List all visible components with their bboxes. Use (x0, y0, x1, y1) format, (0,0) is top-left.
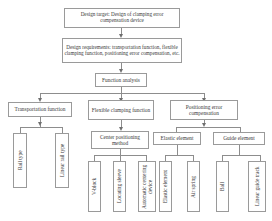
connector-positioning-bus (176, 127, 240, 128)
node-elastic-element-label: Elastic element (159, 135, 194, 141)
node-transportation-function: Transportation function (8, 102, 72, 117)
node-design-requirements: Design requirements: transportation func… (62, 38, 182, 63)
node-v-block-label: V-block (91, 177, 97, 196)
connector-guide-stem (239, 145, 240, 155)
node-positioning-error-compensation-label: Positioning error compensation (171, 104, 237, 116)
node-automatic-centering-device: Automatic centering device (138, 161, 156, 212)
node-function-analysis: Function analysis (95, 73, 147, 87)
node-locating-sleeve-label: Locating sleeve (116, 169, 122, 205)
node-linear-rail-type-label: Linear rail type (59, 143, 65, 178)
node-center-positioning-method-label: Center positioning method (92, 134, 148, 146)
connector-analysis-bus (40, 93, 204, 94)
node-locating-sleeve: Locating sleeve (113, 161, 126, 212)
connector-guide-bus (222, 155, 260, 156)
node-automatic-centering-device-label: Automatic centering device (141, 162, 153, 211)
flowchart-canvas: Design target: Design of clamping error … (0, 0, 272, 221)
node-linear-guide-track-label: Linear guide track (254, 166, 260, 208)
node-design-requirements-label: Design requirements: transportation func… (63, 45, 181, 57)
node-center-positioning-method: Center positioning method (91, 131, 149, 149)
node-v-block: V-block (88, 161, 101, 212)
node-elastic-element-leaf-label: Elastic element (162, 169, 168, 204)
node-rail-type-label: Rail type (17, 150, 23, 172)
node-air-spring: Air spring (187, 161, 200, 212)
node-elastic-element: Elastic element (153, 132, 201, 145)
node-guide-element-label: Guide element (222, 135, 256, 141)
node-air-spring-label: Air spring (190, 175, 196, 199)
node-linear-rail-type: Linear rail type (55, 133, 69, 188)
node-function-analysis-label: Function analysis (101, 77, 141, 83)
node-linear-guide-track: Linear guide track (248, 161, 266, 212)
node-flexible-clamping-function: Flexible clamping function (88, 100, 154, 120)
node-design-target: Design target: Design of clamping error … (64, 8, 180, 28)
connector-elastic-stem (177, 145, 178, 155)
node-positioning-error-compensation: Positioning error compensation (170, 100, 238, 120)
node-transportation-function-label: Transportation function (14, 106, 67, 112)
connector-elastic-bus (165, 155, 193, 156)
connector-transportation-bus (20, 127, 62, 128)
node-ball: Ball (216, 161, 229, 212)
node-design-target-label: Design target: Design of clamping error … (65, 12, 179, 24)
node-flexible-clamping-function-label: Flexible clamping function (91, 107, 151, 113)
arrowhead-transportation-stem (38, 122, 42, 126)
node-elastic-element-leaf: Elastic element (159, 161, 172, 212)
node-guide-element: Guide element (213, 132, 265, 145)
node-rail-type: Rail type (13, 133, 27, 188)
node-ball-label: Ball (219, 181, 225, 192)
